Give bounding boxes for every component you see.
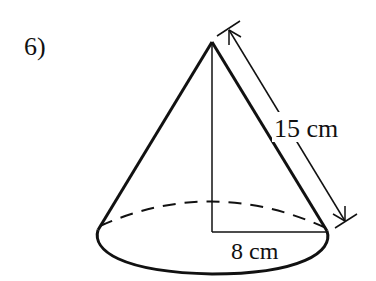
base-back-edge-dashed xyxy=(100,201,326,228)
cone-diagram: 6) 15 cm 8 cm xyxy=(0,0,376,281)
radius-label: 8 cm xyxy=(231,238,279,264)
slant-height-label: 15 cm xyxy=(274,114,338,143)
base-front-edge xyxy=(97,230,328,274)
dim-tick-bottom xyxy=(335,214,357,228)
problem-number: 6) xyxy=(24,32,46,61)
